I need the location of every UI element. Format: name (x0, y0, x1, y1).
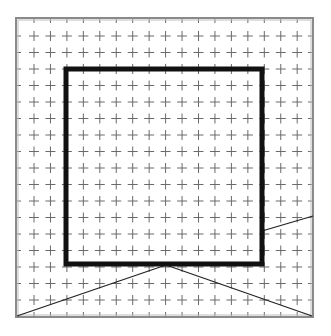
left-bottom-diagonal (17, 265, 166, 316)
diagram-canvas (0, 0, 331, 336)
cross-grid (16, 18, 313, 317)
right-slope-line (262, 216, 313, 231)
inner-square-outline (66, 69, 262, 264)
inner-square (66, 69, 262, 264)
diagram-svg (0, 0, 331, 336)
right-bottom-diagonal (166, 265, 312, 316)
